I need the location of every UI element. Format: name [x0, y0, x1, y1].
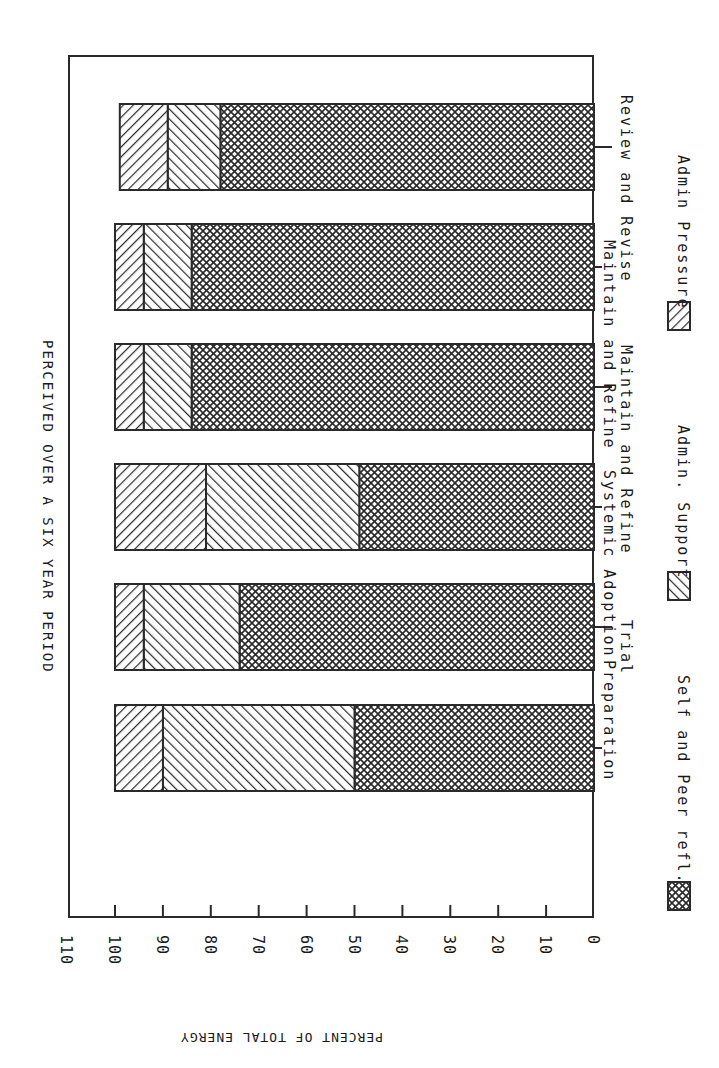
bar-segment-forward-diagonal: [144, 584, 240, 670]
tick-label: 0: [584, 935, 602, 945]
bar-segment-crosshatch: [355, 705, 595, 791]
tick-label: 110: [57, 935, 75, 965]
bar-segment-forward-diagonal: [168, 104, 221, 190]
category-label: Systemic Adoption: [600, 470, 618, 658]
bar-segment-back-diagonal: [115, 464, 206, 550]
bar-segment-crosshatch: [192, 224, 594, 310]
bar-segment-forward-diagonal: [206, 464, 359, 550]
tick-label: 80: [201, 935, 219, 955]
value-axis-ticks: [115, 905, 546, 917]
tick-label: 50: [345, 935, 363, 955]
category-label: Maintain and Refine: [600, 240, 618, 450]
legend-swatch-crosshatch: [668, 882, 690, 910]
bar-segment-crosshatch: [359, 464, 594, 550]
bar-segment-crosshatch: [192, 344, 594, 430]
bar-segment-back-diagonal: [115, 224, 144, 310]
bar-segment-back-diagonal: [115, 705, 163, 791]
tick-label: 30: [440, 935, 458, 955]
tick-label: 20: [488, 935, 506, 955]
legend-label: Admin Pressure: [674, 155, 692, 309]
bar-segment-forward-diagonal: [144, 224, 192, 310]
category-label: Preparation: [600, 660, 618, 781]
tick-label: 70: [249, 935, 267, 955]
category-label: Maintain and Refine: [617, 345, 635, 555]
tick-label: 40: [392, 935, 410, 955]
tick-label: 10: [536, 935, 554, 955]
category-label: Review and Revise: [617, 95, 635, 283]
bar-segment-crosshatch: [240, 584, 594, 670]
category-label: Trial: [617, 620, 635, 675]
legend-label: Admin. Support: [674, 425, 692, 579]
bar-segment-back-diagonal: [115, 344, 144, 430]
bar-segment-forward-diagonal: [163, 705, 355, 791]
tick-label: 100: [105, 935, 123, 965]
bar-segment-back-diagonal: [115, 584, 144, 670]
legend-label: Self and Peer refl.: [674, 675, 692, 885]
bar-segment-forward-diagonal: [144, 344, 192, 430]
tick-label: 60: [297, 935, 315, 955]
bar-segment-back-diagonal: [120, 104, 168, 190]
tick-label: 90: [153, 935, 171, 955]
bars-group: [115, 104, 594, 791]
bar-segment-crosshatch: [220, 104, 594, 190]
